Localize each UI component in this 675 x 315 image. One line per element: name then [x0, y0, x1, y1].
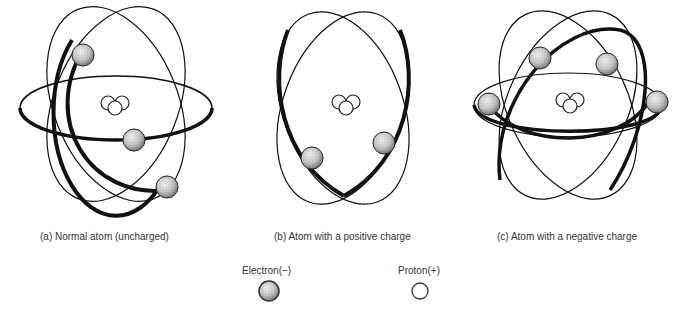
caption-b: (b) Atom with a positive charge [274, 231, 411, 242]
caption-c: (c) Atom with a negative charge [497, 231, 637, 242]
caption-a: (a) Normal atom (uncharged) [40, 231, 169, 242]
atom-normal [0, 0, 240, 220]
legend-electron-label: Electron(−) [242, 265, 291, 276]
nucleus [556, 93, 584, 113]
electron-icon [256, 278, 282, 304]
atom-negative [460, 0, 675, 220]
atom-positive [240, 0, 440, 220]
legend-proton-label: Proton(+) [398, 265, 440, 276]
nucleus [332, 95, 360, 115]
proton-icon [409, 280, 431, 302]
nucleus [101, 96, 129, 115]
